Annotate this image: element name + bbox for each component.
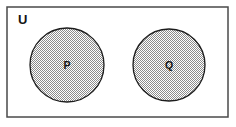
venn-diagram-svg: U P Q bbox=[0, 0, 236, 127]
set-label-q: Q bbox=[165, 59, 173, 71]
universal-set-label: U bbox=[18, 12, 27, 27]
set-label-p: P bbox=[63, 59, 70, 71]
venn-diagram-canvas: U P Q bbox=[0, 0, 236, 127]
